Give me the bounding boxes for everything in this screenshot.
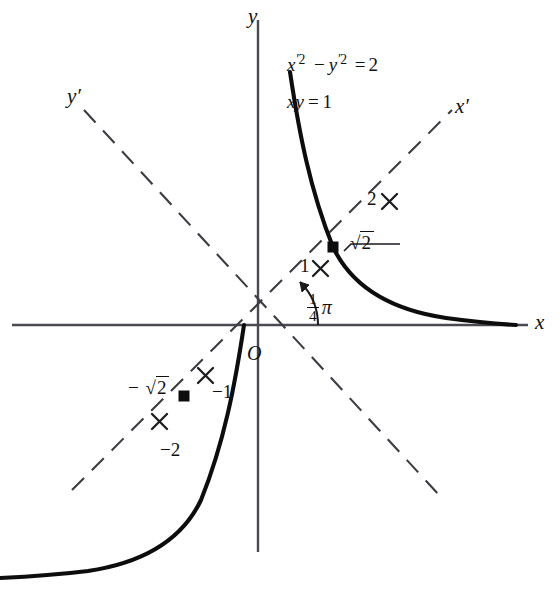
origin-label: O bbox=[247, 343, 261, 363]
vertex-negative-sign: − bbox=[128, 377, 139, 398]
angle-fraction: 1 4 bbox=[307, 291, 319, 324]
sqrt-radicand-negative: 2 bbox=[156, 376, 170, 398]
vertex-positive-marker bbox=[328, 242, 339, 253]
standard-eq-lhs: xy bbox=[287, 91, 304, 112]
x-prime-axis-label: x′ bbox=[455, 96, 469, 117]
sqrt-sign-positive: √ bbox=[350, 232, 360, 253]
rotated-eq-equals: = bbox=[352, 54, 369, 75]
y-axis-label: y bbox=[248, 6, 257, 27]
rotated-equation: x′2 −y′2 =2 bbox=[287, 53, 378, 74]
vertex-negative-label: − √2 bbox=[128, 378, 169, 397]
rotated-eq-rhs: 2 bbox=[369, 54, 379, 75]
standard-eq-rhs: 1 bbox=[323, 91, 333, 112]
standard-eq-equals: = bbox=[304, 91, 323, 112]
sqrt-sign-negative: √ bbox=[145, 377, 155, 398]
vertex-negative-marker bbox=[179, 391, 190, 402]
y-prime-axis bbox=[84, 110, 440, 496]
tick-label-1: 1 bbox=[300, 256, 310, 275]
y-prime-axis-label: y′ bbox=[67, 86, 81, 107]
hyperbola-figure bbox=[0, 0, 560, 596]
axis-group bbox=[12, 20, 528, 552]
tick-label-minus-1: −1 bbox=[212, 382, 232, 401]
angle-label: 1 4 π bbox=[307, 291, 332, 324]
sqrt-radicand-positive: 2 bbox=[360, 231, 374, 253]
tick-label-minus-2: −2 bbox=[160, 440, 180, 459]
sqrt-radical-negative: √2 bbox=[143, 378, 169, 397]
rotated-eq-exp-1: 2 bbox=[298, 52, 305, 67]
vertex-positive-label: √2 bbox=[348, 233, 374, 252]
sqrt-radical-positive: √2 bbox=[348, 233, 374, 252]
rotated-eq-exp-2: 2 bbox=[340, 52, 347, 67]
standard-equation: xy=1 bbox=[287, 92, 332, 111]
hyperbola-branch-lower-left bbox=[0, 325, 244, 578]
tick-label-2: 2 bbox=[367, 189, 377, 208]
rotated-eq-y: y bbox=[329, 54, 337, 75]
pi-symbol: π bbox=[319, 296, 332, 318]
angle-numerator: 1 bbox=[307, 291, 319, 307]
angle-denominator: 4 bbox=[307, 307, 319, 324]
x-prime-axis bbox=[72, 110, 452, 490]
x-axis-label: x bbox=[535, 312, 544, 333]
rotated-eq-minus: − bbox=[310, 54, 329, 75]
